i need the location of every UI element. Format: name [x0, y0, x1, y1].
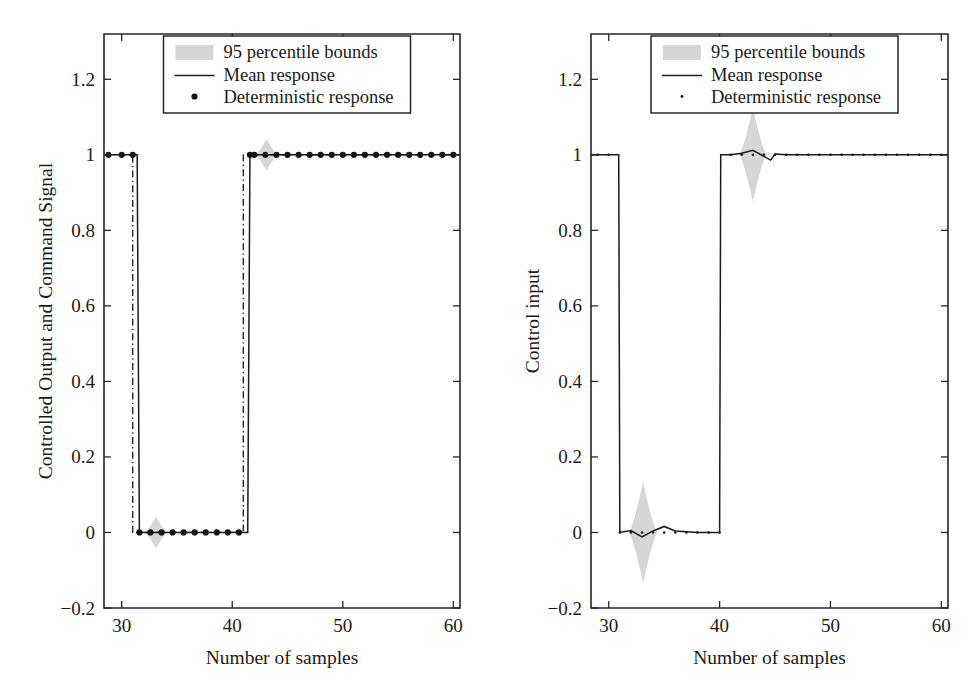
data-point: [652, 531, 655, 534]
data-point: [918, 154, 921, 157]
deterministic-response-points: [105, 152, 456, 536]
y-tick-label: −0.2: [548, 598, 582, 619]
y-axis-title: Controlled Output and Command Signal: [35, 162, 56, 479]
data-point: [169, 529, 175, 535]
data-point: [619, 531, 622, 534]
data-point: [685, 531, 688, 534]
data-point: [807, 154, 810, 157]
x-tick-label: 30: [112, 615, 131, 636]
data-point: [729, 154, 732, 157]
y-tick-label: 0: [86, 522, 96, 543]
legend-label: 95 percentile bounds: [224, 42, 378, 62]
deterministic-response-points: [596, 154, 942, 534]
x-axis-title: Number of samples: [693, 647, 846, 668]
data-point: [818, 154, 821, 157]
data-point: [406, 152, 412, 158]
data-point: [225, 529, 231, 535]
data-point: [295, 152, 301, 158]
y-axis-title: Control input: [522, 268, 543, 373]
data-point: [273, 152, 279, 158]
x-tick-label: 40: [710, 615, 729, 636]
y-tick-label: 0.4: [558, 371, 582, 392]
data-point: [428, 152, 434, 158]
data-point: [119, 152, 125, 158]
mean-response-line: [104, 155, 460, 533]
y-tick-label: 1.2: [71, 69, 95, 90]
y-tick-label: 1.2: [558, 69, 582, 90]
data-point: [373, 152, 379, 158]
data-point: [741, 154, 744, 157]
data-point: [236, 529, 242, 535]
data-point: [785, 154, 788, 157]
plot-svg-right: −0.200.20.40.60.811.230405060Number of s…: [489, 0, 979, 691]
legend: 95 percentile boundsMean responseDetermi…: [651, 36, 898, 113]
data-point: [262, 152, 268, 158]
data-point: [340, 152, 346, 158]
legend-band-swatch: [176, 45, 214, 60]
data-point: [874, 154, 877, 157]
plot-svg-left: −0.200.20.40.60.811.230405060Number of s…: [0, 0, 489, 691]
legend-label: Deterministic response: [711, 87, 881, 107]
y-tick-label: 0.8: [71, 220, 95, 241]
x-tick-label: 60: [932, 615, 951, 636]
y-tick-label: 0: [573, 522, 583, 543]
data-point: [192, 529, 198, 535]
data-point: [351, 152, 357, 158]
legend-dot-swatch: [191, 93, 197, 99]
data-point: [630, 531, 633, 534]
data-point: [774, 154, 777, 157]
y-tick-label: 1: [86, 144, 96, 165]
legend-label: Mean response: [224, 65, 335, 85]
y-tick-label: 1: [573, 144, 583, 165]
data-point: [851, 154, 854, 157]
legend-label: 95 percentile bounds: [711, 42, 865, 62]
y-tick-label: −0.2: [61, 598, 95, 619]
data-point: [203, 529, 209, 535]
y-tick-label: 0.4: [71, 371, 95, 392]
y-tick-label: 0.8: [558, 220, 582, 241]
data-point: [318, 152, 324, 158]
chart-panel-right: −0.200.20.40.60.811.230405060Number of s…: [489, 0, 978, 691]
command-signal-line: [104, 155, 460, 533]
data-point: [862, 154, 865, 157]
data-point: [329, 152, 335, 158]
legend-label: Deterministic response: [224, 87, 394, 107]
data-point: [384, 152, 390, 158]
data-point: [929, 154, 932, 157]
data-point: [395, 152, 401, 158]
data-point: [130, 152, 136, 158]
data-point: [417, 152, 423, 158]
data-point: [641, 531, 644, 534]
data-point: [763, 154, 766, 157]
data-point: [147, 529, 153, 535]
data-point: [607, 154, 610, 157]
data-point: [718, 531, 721, 534]
data-point: [181, 529, 187, 535]
y-tick-label: 0.6: [558, 295, 582, 316]
y-tick-label: 0.6: [71, 295, 95, 316]
data-point: [896, 154, 899, 157]
data-point: [136, 529, 142, 535]
x-tick-label: 50: [821, 615, 840, 636]
data-point: [696, 531, 699, 534]
data-point: [840, 154, 843, 157]
chart-panel-left: −0.200.20.40.60.811.230405060Number of s…: [0, 0, 489, 691]
legend: 95 percentile boundsMean responseDetermi…: [164, 36, 411, 113]
data-point: [707, 531, 710, 534]
data-point: [307, 152, 313, 158]
y-tick-label: 0.2: [71, 446, 95, 467]
data-point: [158, 529, 164, 535]
data-point: [362, 152, 368, 158]
data-point: [829, 154, 832, 157]
mean-response-line: [591, 150, 948, 537]
data-point: [796, 154, 799, 157]
data-point: [439, 152, 445, 158]
data-point: [885, 154, 888, 157]
data-point: [214, 529, 220, 535]
data-point: [752, 154, 755, 157]
legend-band-swatch: [663, 45, 701, 60]
y-tick-label: 0.2: [558, 446, 582, 467]
x-tick-label: 50: [333, 615, 352, 636]
data-point: [907, 154, 910, 157]
data-point: [674, 531, 677, 534]
